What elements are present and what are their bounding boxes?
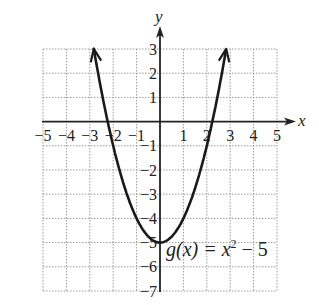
y-tick-label: −7 <box>140 283 157 300</box>
x-tick-label: 3 <box>226 127 234 144</box>
y-tick-label: 1 <box>149 89 157 106</box>
x-tick-label: −4 <box>58 127 75 144</box>
x-tick-label: −3 <box>81 127 98 144</box>
x-tick-label: 1 <box>179 127 187 144</box>
function-label-rest: − 5 <box>237 238 268 260</box>
x-tick-label: −5 <box>34 127 51 144</box>
function-label-name: g(x) = x <box>166 238 231 261</box>
y-tick-label: −6 <box>140 258 157 275</box>
parabola-plot: −5−4−3−2−112345321−1−2−3−4−5−6−7 x y g(x… <box>0 0 319 305</box>
y-axis-label: y <box>153 7 163 26</box>
function-label: g(x) = x2 − 5 <box>166 237 268 261</box>
y-tick-label: 2 <box>149 65 157 82</box>
y-tick-label: −3 <box>140 186 157 203</box>
chart-container: −5−4−3−2−112345321−1−2−3−4−5−6−7 x y g(x… <box>0 0 319 305</box>
x-tick-label: 5 <box>273 127 281 144</box>
y-tick-label: −2 <box>140 162 157 179</box>
x-tick-label: 4 <box>250 127 258 144</box>
y-tick-label: 3 <box>149 41 157 58</box>
x-axis-label: x <box>297 111 306 130</box>
y-tick-label: −4 <box>140 210 157 227</box>
y-tick-label: −1 <box>140 137 157 154</box>
